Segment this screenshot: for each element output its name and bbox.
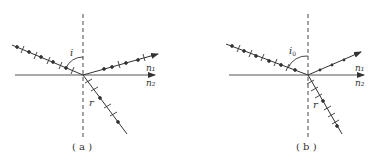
refraction-angle-label: r — [89, 97, 95, 108]
diagram-b: i0 r n₁ n₂ ( b ) — [189, 0, 377, 164]
brewster-angle-arc — [288, 56, 308, 68]
incidence-angle-label: i — [70, 47, 73, 58]
panel-caption-a: ( a ) — [72, 141, 92, 152]
reflected-ray — [308, 52, 361, 75]
brewster-angle-label: i0 — [289, 45, 296, 57]
diagram-a: i r n₁ n₂ ( a ) — [0, 0, 188, 164]
medium-n2-label: n₂ — [355, 78, 365, 88]
medium-n2-label: n₂ — [146, 78, 156, 88]
medium-n1-label: n₁ — [146, 63, 155, 73]
incidence-angle-arc — [66, 57, 83, 68]
panel-a: i r n₁ n₂ ( a ) — [0, 0, 188, 164]
panel-caption-b: ( b ) — [296, 141, 317, 152]
refraction-angle-label: r — [313, 99, 319, 110]
panel-b: i0 r n₁ n₂ ( b ) — [189, 0, 377, 164]
medium-n1-label: n₁ — [355, 63, 364, 73]
